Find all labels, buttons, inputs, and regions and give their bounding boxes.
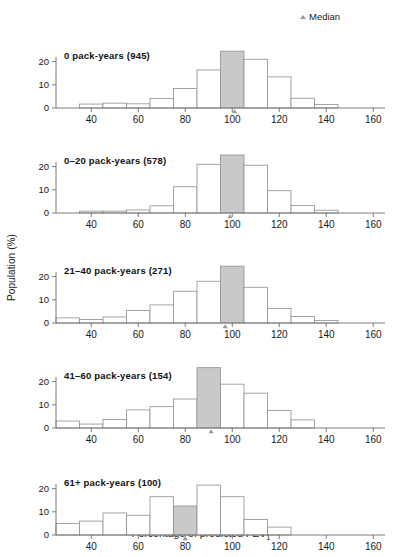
y-tick-label: 10 — [38, 506, 49, 517]
panel-1: 010204060801001201401600 pack-years (945… — [0, 20, 402, 125]
x-tick-label: 60 — [133, 541, 145, 552]
x-tick-label: 100 — [224, 541, 241, 552]
x-tick-label: 40 — [86, 329, 98, 340]
y-tick-label: 10 — [38, 294, 49, 305]
bar — [150, 497, 174, 535]
panel-title-5: 61+ pack-years (100) — [64, 477, 161, 488]
panel-5: 0102040608010012014016061+ pack-years (1… — [0, 447, 402, 552]
bar — [103, 103, 127, 108]
bar — [127, 104, 151, 108]
bar — [268, 410, 292, 428]
bar — [244, 59, 268, 108]
median-marker-icon — [227, 214, 232, 218]
y-tick-label: 10 — [38, 79, 49, 90]
x-tick-label: 40 — [86, 541, 98, 552]
panel-plot-1: 01020406080100120140160 — [0, 20, 402, 125]
x-tick-label: 100 — [224, 219, 241, 230]
bar — [291, 98, 315, 108]
x-tick-label: 80 — [180, 219, 192, 230]
bar — [174, 187, 198, 213]
bar — [291, 420, 315, 428]
x-tick-label: 120 — [271, 541, 288, 552]
panel-2: 010204060801001201401600–20 pack-years (… — [0, 125, 402, 230]
bar — [56, 318, 80, 323]
bar — [80, 104, 104, 108]
x-tick-label: 60 — [133, 114, 145, 125]
panel-3: 0102040608010012014016021–40 pack-years … — [0, 235, 402, 340]
panel-plot-5: 01020406080100120140160 — [0, 447, 402, 552]
bar — [268, 308, 292, 323]
bar — [80, 424, 104, 428]
x-tick-label: 120 — [271, 434, 288, 445]
y-tick-label: 0 — [44, 207, 49, 218]
x-tick-label: 120 — [271, 219, 288, 230]
x-tick-label: 160 — [365, 541, 382, 552]
median-marker-icon — [183, 536, 188, 540]
bar — [268, 77, 292, 108]
x-tick-label: 40 — [86, 434, 98, 445]
bar — [150, 407, 174, 428]
y-tick-label: 0 — [44, 102, 49, 113]
panel-title-3: 21–40 pack-years (271) — [64, 265, 172, 276]
bar — [56, 523, 80, 535]
bar — [150, 206, 174, 213]
x-tick-label: 80 — [180, 434, 192, 445]
y-tick-label: 20 — [38, 161, 49, 172]
bar — [221, 384, 245, 428]
y-tick-label: 0 — [44, 422, 49, 433]
x-tick-label: 160 — [365, 434, 382, 445]
bar — [80, 521, 104, 535]
bar — [174, 291, 198, 323]
bar — [150, 305, 174, 323]
bar-median-highlight — [174, 506, 198, 535]
bar — [244, 165, 268, 213]
x-tick-label: 40 — [86, 114, 98, 125]
y-tick-label: 20 — [38, 271, 49, 282]
x-tick-label: 60 — [133, 219, 145, 230]
bar — [221, 497, 245, 535]
bar — [103, 317, 127, 323]
x-tick-label: 80 — [180, 329, 192, 340]
median-marker-icon — [232, 109, 237, 113]
x-tick-label: 140 — [318, 329, 335, 340]
bar — [174, 89, 198, 108]
bar — [174, 399, 198, 428]
x-tick-label: 80 — [180, 114, 192, 125]
x-tick-label: 100 — [224, 114, 241, 125]
bar — [197, 70, 221, 108]
x-tick-label: 100 — [224, 434, 241, 445]
bar — [244, 287, 268, 323]
bars — [56, 485, 291, 535]
bar — [103, 419, 127, 428]
bar — [197, 281, 221, 323]
panel-title-1: 0 pack-years (945) — [64, 50, 150, 61]
x-tick-label: 140 — [318, 541, 335, 552]
panel-plot-3: 01020406080100120140160 — [0, 235, 402, 340]
bar — [244, 519, 268, 535]
x-tick-label: 120 — [271, 114, 288, 125]
x-tick-label: 60 — [133, 329, 145, 340]
bar-median-highlight — [221, 266, 245, 323]
bar-median-highlight — [221, 51, 245, 108]
x-tick-label: 40 — [86, 219, 98, 230]
bar — [291, 317, 315, 324]
bar — [127, 410, 151, 428]
bar — [127, 515, 151, 535]
bar — [56, 421, 80, 428]
x-tick-label: 140 — [318, 434, 335, 445]
bar — [268, 191, 292, 213]
bar — [197, 164, 221, 213]
y-tick-label: 10 — [38, 399, 49, 410]
bar — [197, 485, 221, 535]
median-marker-icon — [209, 429, 214, 433]
x-tick-label: 160 — [365, 219, 382, 230]
panel-title-4: 41–60 pack-years (154) — [64, 370, 172, 381]
x-tick-label: 140 — [318, 114, 335, 125]
panel-title-2: 0–20 pack-years (578) — [64, 155, 166, 166]
bar-median-highlight — [197, 368, 221, 428]
panel-plot-2: 01020406080100120140160 — [0, 125, 402, 230]
bar — [291, 206, 315, 213]
x-tick-label: 80 — [180, 541, 192, 552]
y-tick-label: 20 — [38, 376, 49, 387]
y-tick-label: 20 — [38, 56, 49, 67]
